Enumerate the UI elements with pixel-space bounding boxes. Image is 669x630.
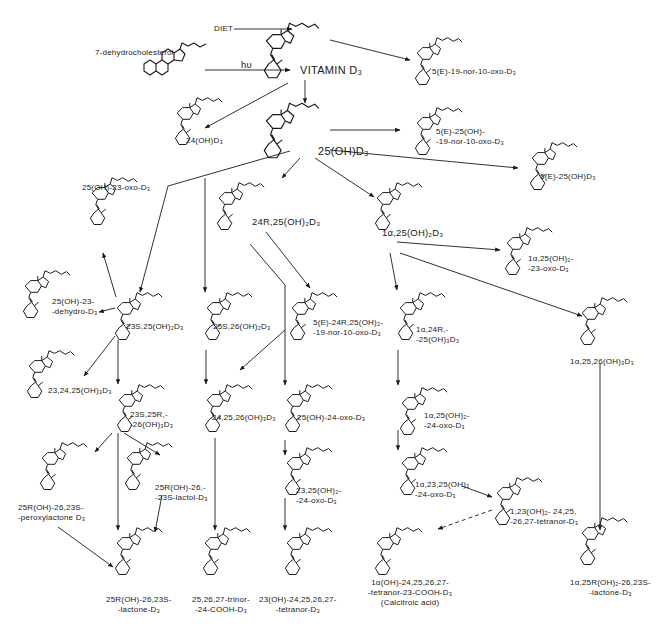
- reaction-arrow: [438, 510, 492, 529]
- compound-label: VITAMIN D₃: [300, 64, 362, 77]
- molecule-structure-icon: [22, 348, 80, 408]
- compound-label: 25R(OH)-26,23S- -peroxylactone D₃: [18, 503, 85, 523]
- compound-label: 5(E)-25(OH)D₃: [540, 172, 596, 182]
- molecule-structure-icon: [258, 100, 325, 169]
- diet-label: DIET: [214, 24, 233, 34]
- compound-label: 25R(OH)-26,- -23S-lactol-D₃: [155, 483, 208, 503]
- reaction-arrow: [390, 253, 397, 290]
- compound-label: 24R,25(OH)₂D₃: [252, 216, 320, 228]
- compound-label: 25(OH)-23- -dehydro-D₃: [52, 297, 97, 317]
- molecule-structure-icon: [35, 440, 93, 500]
- compound-label: 5(E)-19-nor-10-oxo-D₃: [432, 67, 516, 77]
- molecule-structure-icon: [280, 382, 338, 442]
- compound-label: 1α,24R,- -25(OH)₃D₃: [416, 325, 459, 345]
- molecule-structure-icon: [258, 20, 325, 89]
- compound-label: 25(OH)-23-oxo-D₃: [82, 183, 150, 193]
- molecule-structure-icon: [575, 515, 633, 575]
- compound-label: 25(OH)-24-oxo-D₃: [297, 413, 365, 423]
- molecule-structure-icon: [280, 525, 338, 585]
- molecule-structure-icon: [525, 140, 583, 200]
- pathway-diagram: DIET 7-dehydrocholesterol hυ VITAMIN D₃: [0, 0, 669, 630]
- compound-label: 23S,25(OH)₂D₃: [126, 322, 183, 332]
- compound-label: 23S,25R,- -26(OH)₃D₃: [130, 410, 173, 430]
- compound-label: 1α,25(OH)₂- -23-oxo-D₃: [528, 254, 574, 274]
- molecule-structure-icon: [198, 525, 256, 585]
- compound-label: 24,25,26(OH)₃D₃: [212, 413, 276, 423]
- molecule-structure-icon: [200, 290, 258, 350]
- molecule-structure-icon: [212, 180, 270, 240]
- compound-label: 1α,25R(OH)₂-26,23S- -lactone-D₃: [570, 578, 651, 598]
- compound-label: 23,24,25(OH)₃D₃: [48, 386, 112, 396]
- reaction-arrow: [266, 232, 310, 288]
- compound-label: 25R(OH)-26,23S- -lactone-D₃: [106, 595, 172, 615]
- compound-label: 1α,25(OH)₂D₃: [382, 227, 443, 239]
- reaction-arrow: [95, 433, 112, 452]
- reaction-arrow: [397, 242, 500, 250]
- compound-label: 25(OH)D₃: [318, 145, 369, 158]
- compound-label: 24(OH)D₃: [186, 136, 223, 146]
- molecule-structure-icon: [110, 525, 168, 585]
- compound-label: 5(E)-24R,25(OH)₂- -19-nor-10-oxo-D₃: [313, 318, 383, 338]
- compound-label: 5(E)-25(OH)- -19-nor-10-oxo-D₃: [436, 127, 504, 147]
- compound-label: 23(OH)-24,25,26,27- -tetranor-D₃: [259, 595, 337, 615]
- molecule-structure-icon: [575, 295, 633, 355]
- molecule-structure-icon: [370, 525, 428, 585]
- compound-label: 23,25(OH)₂- -24-oxo-D₃: [296, 486, 341, 506]
- compound-label: 1,23(OH)₂- 24,25, -26,27-tetranor-D₃: [510, 507, 578, 527]
- molecule-structure-icon: [200, 382, 258, 442]
- compound-label: 25S,26(OH)₂D₃: [213, 322, 270, 332]
- reaction-arrow: [58, 527, 113, 567]
- molecule-structure-icon: [140, 40, 210, 84]
- compound-label: 1α,23,25(OH)₃ -24-oxo-D₃: [415, 480, 470, 500]
- compound-label: 1α(OH)-24,25,26,27- -tetranor-23-COOH-D₃…: [368, 578, 452, 608]
- reaction-arrow: [330, 40, 410, 60]
- molecule-structure-icon: [410, 35, 468, 95]
- molecule-structure-icon: [110, 290, 168, 350]
- uv-light-label: hυ: [241, 59, 252, 71]
- compound-label: 25,26,27-trinor- -24-COOH-D₃: [192, 595, 250, 615]
- compound-label: 1α,25,26(OH)₃D₃: [570, 357, 634, 367]
- compound-label: 1α,25(OH)₂- -24-oxo-D₃: [424, 411, 470, 431]
